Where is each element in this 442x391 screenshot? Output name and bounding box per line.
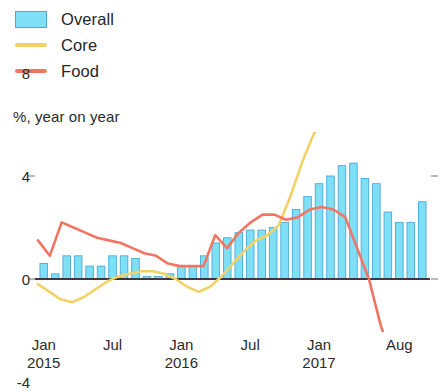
bar bbox=[132, 258, 140, 279]
x-tick-label: Jul bbox=[103, 336, 122, 354]
x-axis-tick-labels: Jan2015JulJan2016JulJan2017Aug bbox=[0, 332, 442, 377]
y-tick-label: 0 bbox=[0, 271, 30, 288]
bar bbox=[109, 256, 117, 279]
legend-label-core: Core bbox=[61, 37, 97, 54]
bar bbox=[350, 163, 358, 279]
bar bbox=[373, 184, 381, 279]
line-series-food bbox=[38, 207, 428, 332]
bar bbox=[292, 209, 300, 279]
bar bbox=[40, 264, 48, 279]
bar bbox=[407, 222, 415, 279]
legend-item-core: Core bbox=[14, 32, 224, 58]
core-line-swatch-icon bbox=[14, 36, 48, 54]
x-tick-label: Jan2016 bbox=[165, 336, 198, 373]
chart-legend: Overall Core Food bbox=[14, 6, 224, 84]
bar bbox=[86, 266, 94, 279]
x-tick-label: Jan2017 bbox=[302, 336, 335, 373]
legend-item-food: Food bbox=[14, 58, 224, 84]
bar bbox=[281, 222, 289, 279]
bar bbox=[97, 266, 105, 279]
bar bbox=[384, 212, 392, 279]
bar bbox=[315, 184, 323, 279]
legend-label-overall: Overall bbox=[61, 11, 114, 28]
bar bbox=[212, 243, 220, 279]
line-series-core bbox=[38, 132, 428, 302]
bar bbox=[396, 222, 404, 279]
y-axis-title: %, year on year bbox=[13, 108, 120, 125]
bar bbox=[246, 230, 254, 279]
x-tick-label: Jul bbox=[241, 336, 260, 354]
bar bbox=[189, 266, 197, 279]
bar bbox=[74, 256, 82, 279]
y-tick-label: 4 bbox=[0, 168, 30, 185]
chart-svg bbox=[0, 132, 442, 332]
y-tick-label: 8 bbox=[0, 65, 30, 82]
bar bbox=[178, 266, 186, 279]
bar bbox=[269, 228, 277, 280]
overall-bar-swatch-icon bbox=[14, 10, 48, 28]
legend-label-food: Food bbox=[61, 63, 99, 80]
bar bbox=[418, 202, 426, 279]
legend-item-overall: Overall bbox=[14, 6, 224, 32]
bar bbox=[338, 166, 346, 279]
bar bbox=[63, 256, 71, 279]
chart-plot-area: 12840-4 bbox=[0, 132, 442, 332]
bar bbox=[327, 176, 335, 279]
x-tick-label: Aug bbox=[386, 336, 413, 354]
x-tick-label: Jan2015 bbox=[27, 336, 60, 373]
